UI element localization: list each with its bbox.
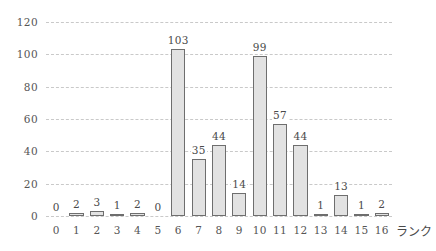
bar [334, 195, 348, 216]
x-axis-tick-label: 11 [273, 224, 287, 236]
bar-slot: 44 [292, 22, 308, 216]
bar-value-label: 1 [358, 199, 365, 211]
bar [130, 213, 144, 216]
bar-value-label: 44 [212, 130, 226, 142]
bar-value-label: 35 [191, 144, 207, 156]
bar-value-label: 13 [333, 180, 349, 192]
bar-value-label: 14 [231, 178, 247, 190]
bar-value-label: 0 [154, 201, 161, 213]
y-axis-tick-label: 20 [0, 178, 38, 190]
bar [273, 124, 287, 216]
bar-slot: 0 [48, 22, 64, 216]
bar-slot: 2 [374, 22, 390, 216]
y-axis-tick-label: 40 [0, 145, 38, 157]
bar-value-label: 2 [134, 198, 141, 210]
bar-slot: 1 [353, 22, 369, 216]
y-axis-tick-label: 100 [0, 48, 38, 60]
y-axis-tick-label: 80 [0, 81, 38, 93]
bar [232, 193, 246, 216]
bar-value-label: 2 [73, 198, 80, 210]
bar-value-label: 44 [293, 130, 307, 142]
bar-slot: 2 [68, 22, 84, 216]
bar [171, 49, 185, 216]
x-axis-tick-label: 0 [53, 224, 60, 236]
x-axis-tick-label: 4 [134, 224, 141, 236]
x-axis-tick-label: 13 [314, 224, 328, 236]
bar [69, 213, 83, 216]
bar-value-label: 0 [53, 201, 60, 213]
bars-container: 02312010335441499574411312 [46, 22, 392, 216]
bar [354, 214, 368, 216]
x-axis-tick-label: 7 [195, 224, 202, 236]
bar-value-label: 57 [272, 109, 288, 121]
bar-slot: 44 [211, 22, 227, 216]
bar-slot: 99 [252, 22, 268, 216]
bar-value-label: 1 [317, 199, 324, 211]
x-axis-tick-label: 14 [334, 224, 348, 236]
bar-value-label: 3 [93, 196, 100, 208]
x-axis-tick-label: 6 [175, 224, 182, 236]
bar-slot: 35 [191, 22, 207, 216]
x-axis-tick-label: 8 [216, 224, 223, 236]
x-axis-tick-label: 10 [253, 224, 267, 236]
bar [375, 213, 389, 216]
bar-slot: 0 [150, 22, 166, 216]
bar-value-label: 103 [168, 34, 189, 46]
bar [293, 145, 307, 216]
x-axis-tick-label: 5 [154, 224, 161, 236]
y-axis-tick-label: 120 [0, 16, 38, 28]
x-axis-tick-label: 1 [73, 224, 80, 236]
bar [90, 211, 104, 216]
bar-slot: 14 [231, 22, 247, 216]
x-axis-tick-label: 16 [375, 224, 389, 236]
bar-value-label: 99 [253, 41, 267, 53]
x-axis-tick-label: 15 [354, 224, 368, 236]
bar-value-label: 1 [114, 199, 121, 211]
x-axis-tick-labels: 012345678910111213141516 [46, 224, 392, 244]
y-axis-tick-label: 0 [0, 210, 38, 222]
x-axis-tick-label: 3 [114, 224, 121, 236]
bar [110, 214, 124, 216]
bar-value-label: 2 [378, 198, 385, 210]
x-axis-tick-label: 2 [93, 224, 100, 236]
bar-chart: 020406080100120 023120103354414995744113… [0, 0, 436, 251]
bar-slot: 103 [170, 22, 186, 216]
y-axis-tick-label: 60 [0, 113, 38, 125]
bar-slot: 2 [129, 22, 145, 216]
x-axis-title: ランク [396, 222, 432, 239]
bar [253, 56, 267, 216]
bar [314, 214, 328, 216]
bar-slot: 13 [333, 22, 349, 216]
bar [192, 159, 206, 216]
x-axis-tick-label: 12 [293, 224, 307, 236]
bar-slot: 3 [89, 22, 105, 216]
x-axis-tick-label: 9 [236, 224, 243, 236]
bar-slot: 1 [109, 22, 125, 216]
bar-slot: 57 [272, 22, 288, 216]
bar-slot: 1 [313, 22, 329, 216]
bar [212, 145, 226, 216]
x-axis-baseline [46, 216, 392, 217]
